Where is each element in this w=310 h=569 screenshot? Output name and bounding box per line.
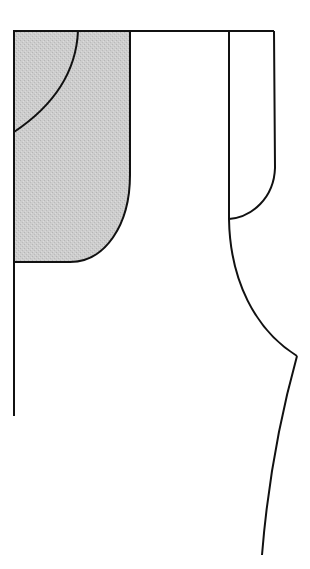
armhole-curve [229, 219, 297, 356]
side-seam-line [262, 356, 297, 555]
pattern-diagram [0, 0, 310, 569]
pattern-drawing-svg [0, 0, 310, 569]
right-facing-outline [229, 31, 275, 219]
